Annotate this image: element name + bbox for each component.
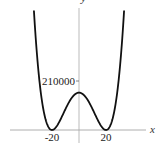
- chart: 210000 -20 20 x y: [0, 0, 159, 154]
- x-tick-label-neg20: -20: [45, 131, 60, 143]
- x-tick-label-20: 20: [101, 131, 113, 143]
- y-axis-label: y: [80, 0, 86, 4]
- x-axis-label: x: [149, 123, 155, 135]
- y-tick-label: 210000: [42, 75, 76, 87]
